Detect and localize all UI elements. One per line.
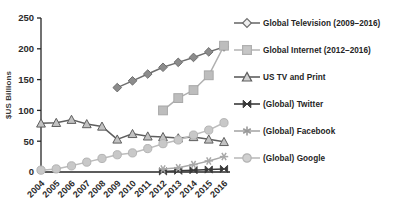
triangle-marker-icon [233,70,261,84]
y-tick-label: 200 [18,43,34,54]
circle-marker-icon [233,151,261,165]
legend-item-1[interactable]: Global Internet (2012–2016) [233,43,371,57]
legend-item-label: Global Television (2009–2016) [263,19,380,28]
data-point-circle [159,140,167,148]
y-axis-title: $US Billions [4,71,13,119]
square-marker-icon [233,43,261,57]
data-point-diamond [204,48,213,57]
legend-item-3[interactable]: (Global) Twitter [233,97,323,111]
data-point-diamond [189,53,198,62]
data-point-circle [174,136,182,144]
series-line [163,157,224,169]
data-point-square [159,106,168,115]
series-0 [113,43,228,92]
data-point-circle [113,151,121,159]
series-3 [159,165,227,175]
data-point-asterisk [205,157,213,164]
legend-item-label: US TV and Print [263,73,326,82]
y-tick-label: 100 [18,105,34,116]
legend-item-label: (Global) Twitter [263,100,323,109]
data-point-triangle [67,115,76,123]
legend-item-0[interactable]: Global Television (2009–2016) [233,16,380,30]
chart-legend: Global Television (2009–2016)Global Inte… [233,16,417,176]
legend-item-label: (Global) Facebook [263,127,335,136]
data-point-diamond [128,77,137,86]
data-point-diamond [113,83,122,92]
legend-item-2[interactable]: US TV and Print [233,70,326,84]
y-tick-label: 150 [18,74,34,85]
asterisk-marker-icon [233,124,261,138]
data-point-circle [144,144,152,152]
data-point-square [189,86,198,95]
data-point-circle [52,165,60,173]
y-tick-label: 0 [29,166,34,177]
data-point-circle [67,162,75,170]
data-point-square [174,94,183,103]
data-point-circle [83,158,91,166]
data-point-circle [37,166,45,174]
series-1 [159,41,229,114]
diamond-marker-icon [233,16,261,30]
y-tick-label: 50 [23,136,34,147]
data-point-circle [98,154,106,162]
data-point-diamond [159,63,168,72]
data-point-circle [189,131,197,139]
data-point-circle [128,149,136,157]
legend-item-label: Global Internet (2012–2016) [263,46,371,55]
series-5 [37,119,228,175]
legend-item-label: (Global) Google [263,154,325,163]
data-point-square [204,71,213,80]
legend-item-4[interactable]: (Global) Facebook [233,124,335,138]
data-point-asterisk [220,153,228,160]
y-tick-label: 250 [18,12,34,23]
data-point-triangle [128,129,137,137]
data-point-diamond [174,58,183,67]
data-point-circle [220,119,228,127]
data-point-circle [205,126,213,134]
x-tick-label: 2016 [208,178,229,199]
legend-item-5[interactable]: (Global) Google [233,151,325,165]
data-point-diamond [143,70,152,79]
series-2 [37,115,229,145]
line-chart: 050100150200250$US Billions2004200520062… [0,0,417,215]
data-point-square [220,41,229,50]
bowtie-marker-icon [233,97,261,111]
